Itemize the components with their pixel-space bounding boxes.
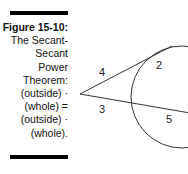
label-lower-inside: 5 [166, 113, 172, 125]
lower-secant [80, 94, 188, 113]
secant-diagram: 4 2 3 5 [0, 0, 188, 174]
label-upper-outside: 4 [99, 66, 105, 78]
label-lower-outside: 3 [99, 103, 105, 115]
label-upper-inside: 2 [156, 59, 162, 71]
